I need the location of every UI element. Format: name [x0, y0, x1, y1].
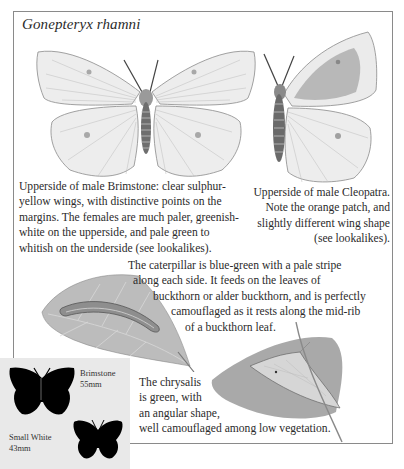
caption-line: The caterpillar is blue-green with a pal… [128, 258, 366, 273]
cleopatra-caption: Upperside of male Cleopatra. Note the or… [244, 185, 390, 247]
caption-line: The chrysalis [139, 375, 331, 390]
caption-line: yellow wings, with distinctive points on… [19, 194, 239, 209]
cleopatra-butterfly-illustration [258, 28, 384, 188]
small-white-size-label: Small White 43mm [9, 432, 52, 453]
caption-line: Upperside of male Brimstone: clear sulph… [19, 179, 239, 194]
caption-line: an angular shape, [139, 406, 331, 421]
brimstone-butterfly-illustration [32, 36, 260, 182]
wingspan: 43mm [9, 443, 52, 454]
caption-line: along each side. It feeds on the leaves … [128, 273, 366, 288]
species-title: Gonepteryx rhamni [22, 16, 141, 33]
caption-line: is green, with [139, 390, 331, 405]
caption-line: camouflaged as it rests along the mid-ri… [128, 304, 366, 319]
caption-line: Note the orange patch, and [244, 200, 390, 215]
small-white-silhouette-icon [72, 418, 124, 460]
brimstone-size-label: Brimstone 55mm [80, 368, 115, 389]
species-name: Brimstone [80, 368, 115, 379]
caption-line: white on the upperside, and pale green t… [19, 225, 239, 240]
brimstone-caption: Upperside of male Brimstone: clear sulph… [19, 179, 239, 256]
caption-line: whitish on the underside (see lookalikes… [19, 241, 239, 256]
caption-line: margins. The females are much paler, gre… [19, 210, 239, 225]
species-name: Small White [9, 432, 52, 443]
caption-line: (see lookalikes). [244, 231, 390, 246]
caption-line: well camouflaged among low vegetation. [139, 421, 331, 436]
caption-line: buckthorn or alder buckthorn, and is per… [128, 289, 366, 304]
caption-line: slightly different wing shape [244, 216, 390, 231]
caption-line: Upperside of male Cleopatra. [244, 185, 390, 200]
chrysalis-caption: The chrysalis is green, with an angular … [139, 375, 331, 437]
wingspan: 55mm [80, 379, 115, 390]
size-comparison-inset: Brimstone 55mm Small White 43mm [0, 358, 130, 469]
brimstone-silhouette-icon [8, 364, 76, 416]
